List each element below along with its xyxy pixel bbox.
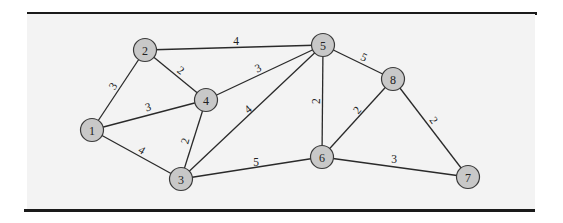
node-7: 7 [457, 166, 480, 189]
edge-weight-3-5: 4 [242, 102, 254, 115]
edge-weight-2-4: 2 [175, 63, 187, 76]
edge-5-6 [322, 45, 323, 157]
edge-weight-1-2: 3 [106, 80, 119, 91]
edge-weights-layer: 33424324525223 [106, 35, 440, 168]
edge-weight-5-6: 2 [310, 98, 322, 104]
edge-weight-2-5: 4 [233, 35, 239, 47]
edge-8-7 [393, 79, 468, 177]
node-label: 6 [319, 151, 325, 165]
node-3: 3 [170, 168, 193, 191]
node-2: 2 [134, 39, 157, 62]
edge-weight-3-6: 5 [253, 156, 259, 168]
edge-weight-4-5: 3 [253, 61, 264, 74]
edge-4-5 [206, 45, 323, 100]
edge-weight-5-8: 5 [359, 50, 370, 63]
node-label: 3 [178, 173, 184, 187]
node-label: 5 [320, 39, 326, 53]
nodes-layer: 12345678 [81, 34, 480, 191]
node-label: 4 [203, 94, 209, 108]
edge-weight-4-3: 2 [178, 136, 191, 145]
edge-1-3 [92, 130, 181, 179]
edge-weight-6-7: 3 [391, 153, 397, 165]
graph-figure: 33424324525223 12345678 [0, 0, 563, 223]
node-5: 5 [312, 34, 335, 57]
node-label: 1 [89, 124, 95, 138]
edge-weight-8-7: 2 [427, 114, 440, 126]
edge-8-6 [322, 79, 393, 157]
node-label: 8 [390, 73, 396, 87]
node-6: 6 [311, 146, 334, 169]
node-4: 4 [195, 89, 218, 112]
node-label: 7 [465, 171, 471, 185]
graph-canvas: 33424324525223 12345678 [0, 0, 563, 223]
edge-3-6 [181, 157, 322, 179]
edge-weight-1-4: 3 [144, 100, 153, 113]
node-1: 1 [81, 119, 104, 142]
node-8: 8 [382, 68, 405, 91]
node-label: 2 [142, 44, 148, 58]
